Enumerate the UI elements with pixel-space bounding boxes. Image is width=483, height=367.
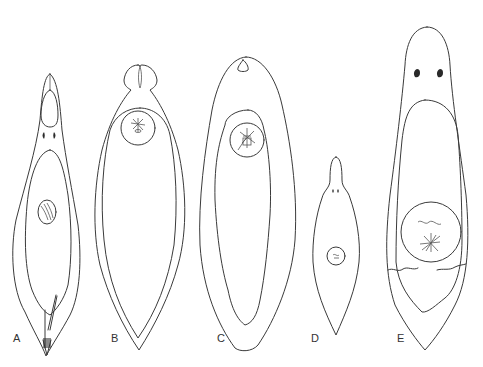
specimen-e-pharynx <box>401 202 461 262</box>
illustration-canvas <box>0 0 483 367</box>
specimen-a-copulatory-bulb <box>43 338 51 348</box>
specimen-e <box>387 27 468 350</box>
specimen-e-duct-left <box>388 268 418 270</box>
specimen-c-pharynx-rays <box>238 128 255 150</box>
specimen-c-anterior-pore <box>238 60 248 72</box>
specimen-a-eyespot-right <box>53 132 55 139</box>
specimen-figure: A B C D E <box>0 0 483 367</box>
specimen-a-inner-outline <box>25 150 71 315</box>
specimen-b <box>95 65 185 350</box>
specimen-d-organ <box>327 247 345 265</box>
specimen-e-pharynx-squiggle <box>418 221 441 224</box>
panel-label-c: C <box>217 333 225 344</box>
specimen-a-eyespot-left <box>43 132 45 139</box>
specimen-a-gonad-hatching <box>41 203 53 220</box>
specimen-d-eyespot-left <box>332 189 334 193</box>
panel-label-b: B <box>111 333 118 344</box>
specimen-e-body-outline <box>387 27 468 350</box>
specimen-a-pharynx <box>41 90 58 127</box>
specimen-b-head-groove <box>139 67 142 88</box>
specimen-e-inner-outline <box>396 100 462 312</box>
specimen-e-duct-right <box>437 264 466 270</box>
specimen-c-body-outline <box>200 57 296 351</box>
specimen-e-eyespot-left <box>414 69 420 77</box>
panel-label-d: D <box>311 333 319 344</box>
specimen-d-organ-detail <box>333 254 339 258</box>
panel-label-e: E <box>397 333 404 344</box>
specimen-e-eyespot-right <box>437 69 443 77</box>
specimen-d-body-outline <box>313 157 360 335</box>
specimen-e-pharynx-rays <box>420 233 440 252</box>
specimen-c <box>200 57 296 351</box>
specimen-a <box>13 74 80 356</box>
panel-label-a: A <box>13 333 20 344</box>
specimen-d-eyespot-right <box>337 189 339 193</box>
specimen-d <box>313 157 360 335</box>
